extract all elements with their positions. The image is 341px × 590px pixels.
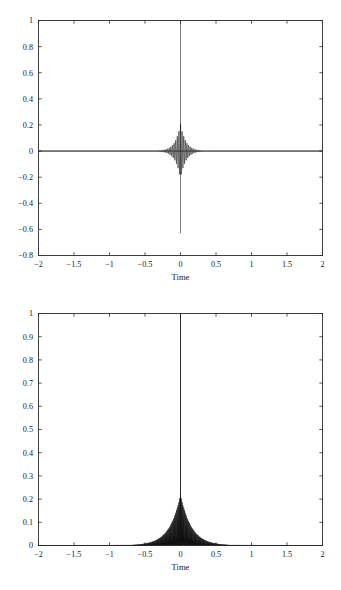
x-tick-label: 0.5 xyxy=(211,260,221,269)
y-tick-label: 0.6 xyxy=(23,402,33,411)
x-tick-label: 1.5 xyxy=(282,550,292,559)
y-tick-label: 0.2 xyxy=(23,495,33,504)
y-tick-label: −0.6 xyxy=(18,225,33,234)
data-layer xyxy=(39,21,323,234)
x-tick-label: 1 xyxy=(249,260,253,269)
y-tick-label: 0.8 xyxy=(23,356,33,365)
x-tick-label: −0.5 xyxy=(138,260,153,269)
central-peak-spike xyxy=(180,314,181,546)
y-tick-label: 0.8 xyxy=(23,43,33,52)
top-plot-canvas: −2−1.5−1−0.500.511.52−0.8−0.6−0.4−0.200.… xyxy=(0,0,341,295)
x-tick-label: −2 xyxy=(34,550,43,559)
top-figure-panel: −2−1.5−1−0.500.511.52−0.8−0.6−0.4−0.200.… xyxy=(0,0,341,295)
y-tick-label: −0.2 xyxy=(18,173,33,182)
x-tick-label: 0.5 xyxy=(211,550,221,559)
y-tick-label: 0 xyxy=(29,147,33,156)
y-tick-label: −0.8 xyxy=(18,251,33,260)
x-tick-label: −1 xyxy=(105,260,114,269)
x-tick-label: 0 xyxy=(178,550,182,559)
y-tick-label: 0 xyxy=(29,541,33,550)
y-tick-label: 0.4 xyxy=(23,449,33,458)
top-plot-group: −2−1.5−1−0.500.511.52−0.8−0.6−0.4−0.200.… xyxy=(18,16,324,281)
x-axis-title: Time xyxy=(172,272,190,282)
bottom-plot-canvas: −2−1.5−1−0.500.511.5200.10.20.30.40.50.6… xyxy=(0,295,341,590)
y-tick-label: 1 xyxy=(29,16,33,25)
data-layer xyxy=(39,314,323,546)
x-tick-label: 2 xyxy=(320,550,324,559)
y-tick-label: 0.3 xyxy=(23,472,33,481)
x-tick-label: 1.5 xyxy=(282,260,292,269)
x-tick-label: −1 xyxy=(105,550,114,559)
x-tick-label: −1.5 xyxy=(67,550,82,559)
y-tick-label: 0.6 xyxy=(23,69,33,78)
y-tick-label: 0.5 xyxy=(23,425,33,434)
x-tick-label: 2 xyxy=(320,260,324,269)
x-tick-label: −0.5 xyxy=(138,550,153,559)
x-tick-label: 0 xyxy=(178,260,182,269)
bottom-plot-group: −2−1.5−1−0.500.511.5200.10.20.30.40.50.6… xyxy=(23,309,325,571)
x-tick-label: 1 xyxy=(249,550,253,559)
x-tick-label: −2 xyxy=(34,260,43,269)
y-tick-label: 0.1 xyxy=(23,518,33,527)
y-tick-label: 1 xyxy=(29,309,33,318)
y-tick-label: 0.2 xyxy=(23,121,33,130)
y-tick-label: 0.9 xyxy=(23,333,33,342)
x-tick-label: −1.5 xyxy=(67,260,82,269)
y-tick-label: 0.4 xyxy=(23,95,33,104)
bottom-figure-panel: −2−1.5−1−0.500.511.5200.10.20.30.40.50.6… xyxy=(0,295,341,590)
y-tick-label: −0.4 xyxy=(18,199,33,208)
x-axis-title: Time xyxy=(172,562,190,572)
y-tick-label: 0.7 xyxy=(23,379,33,388)
